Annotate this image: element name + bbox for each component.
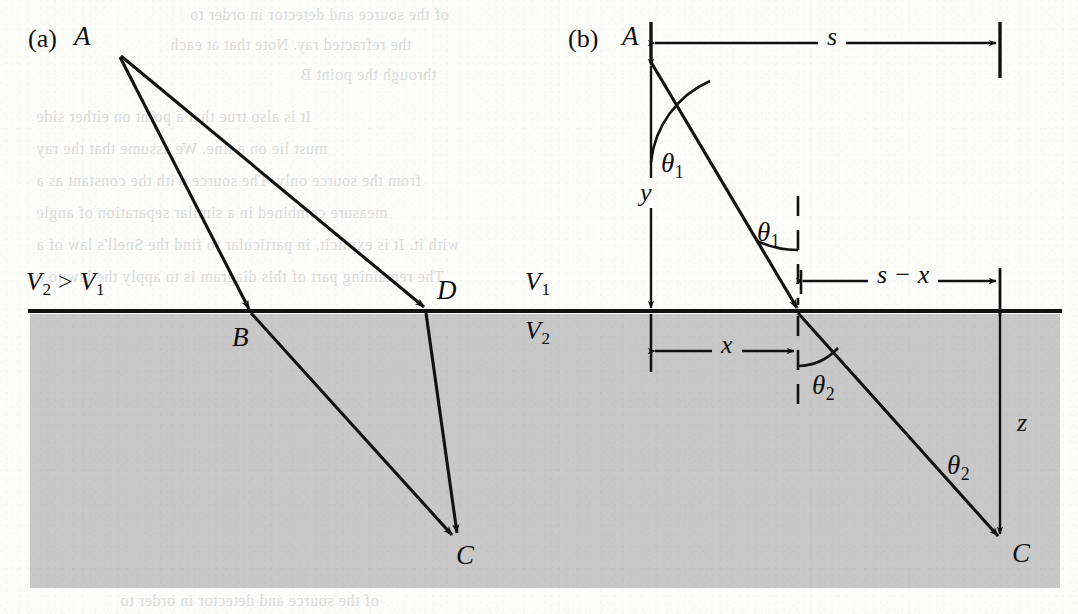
point-label-b: B — [232, 322, 249, 353]
angle-label-theta2-at-interface: θ2 — [812, 370, 835, 405]
velocity-subscript-2: 2 — [42, 280, 51, 299]
theta1-glyph-source: θ — [661, 148, 674, 178]
point-label-c-panel-a: C — [456, 540, 474, 571]
point-label-a-panel-a: A — [74, 21, 91, 52]
point-label-a-panel-b: A — [622, 21, 639, 52]
theta2-glyph-ray: θ — [947, 450, 960, 480]
angle-label-theta1-at-interface: θ1 — [757, 217, 780, 252]
velocity-symbol-fast: V — [26, 267, 42, 296]
dimension-label-s-minus-x: s − x — [868, 260, 938, 290]
point-label-c-panel-b: C — [1012, 538, 1030, 569]
dimension-label-s: s — [818, 22, 846, 52]
ray-a-to-b — [120, 57, 249, 309]
medium-2-shaded-region — [30, 314, 1060, 588]
velocity-v1-symbol: V — [525, 267, 541, 296]
panel-b-label: (b) — [568, 24, 598, 54]
velocity-comparator: > — [51, 267, 80, 296]
ray-a-to-d — [121, 56, 424, 307]
velocity-label-v2: V2 — [525, 316, 550, 349]
panel-a-label: (a) — [28, 24, 57, 54]
velocity-v2-subscript: 2 — [541, 329, 550, 348]
theta1-glyph-interface: θ — [757, 217, 770, 247]
theta1-subscript-source: 1 — [674, 162, 683, 182]
dimension-label-z: z — [1010, 408, 1034, 438]
theta1-subscript-interface: 1 — [770, 231, 779, 251]
velocity-v2-symbol: V — [525, 316, 541, 345]
velocity-relation-label: V2>V1 — [26, 267, 105, 300]
figure-page: of the source and detector in order to t… — [0, 0, 1078, 614]
point-label-d: D — [437, 275, 457, 306]
theta2-glyph-interface: θ — [812, 370, 825, 400]
velocity-subscript-1: 1 — [96, 280, 105, 299]
velocity-symbol-slow: V — [80, 267, 96, 296]
theta2-subscript-ray: 2 — [960, 464, 969, 484]
velocity-label-v1: V1 — [525, 267, 550, 300]
ray-b-incident — [651, 62, 797, 308]
diagram-canvas — [0, 0, 1078, 614]
dimension-label-x: x — [712, 330, 742, 360]
velocity-v1-subscript: 1 — [541, 280, 550, 299]
angle-label-theta2-along-ray: θ2 — [947, 450, 970, 485]
theta2-subscript-interface: 2 — [825, 384, 834, 404]
dimension-label-y: y — [633, 178, 659, 208]
angle-label-theta1-at-source: θ1 — [661, 148, 684, 183]
